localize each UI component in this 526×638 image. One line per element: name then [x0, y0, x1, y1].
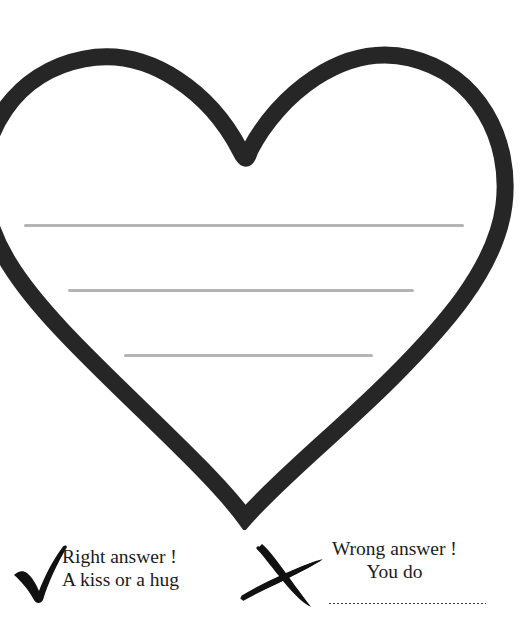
right-answer-block: Right answer ! A kiss or a hug — [4, 530, 234, 638]
answer-strip: Right answer ! A kiss or a hug Wrong ans… — [0, 530, 526, 638]
wrong-answer-block: Wrong answer ! You do — [236, 530, 526, 638]
writing-line-3[interactable] — [124, 354, 373, 357]
writing-line-2[interactable] — [68, 289, 414, 292]
heart-area — [0, 0, 526, 530]
wrong-answer-line-2: You do — [332, 561, 457, 584]
dotted-blank-line[interactable] — [328, 602, 486, 605]
heart-outline-icon — [0, 0, 526, 530]
right-answer-line-1: Right answer ! — [62, 546, 179, 569]
right-answer-line-2: A kiss or a hug — [62, 569, 179, 592]
worksheet-page: Right answer ! A kiss or a hug Wrong ans… — [0, 0, 526, 638]
writing-line-1[interactable] — [24, 224, 464, 227]
check-mark-icon — [12, 542, 68, 604]
right-answer-text: Right answer ! A kiss or a hug — [62, 546, 179, 591]
wrong-answer-text: Wrong answer ! You do — [332, 538, 457, 583]
cross-mark-icon — [236, 540, 326, 610]
wrong-answer-line-1: Wrong answer ! — [332, 538, 457, 561]
